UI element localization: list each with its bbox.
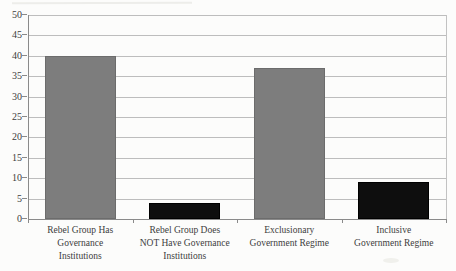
category-slot-1 — [28, 15, 133, 219]
y-tick-label-5: 5 — [0, 193, 22, 205]
y-tick-label-45: 45 — [0, 29, 22, 41]
y-tick-20 — [22, 136, 27, 137]
category-label-line: Institutions — [28, 250, 133, 263]
y-tick-45 — [22, 34, 27, 35]
y-tick-30 — [22, 96, 27, 97]
y-tick-15 — [22, 157, 27, 158]
y-tick-label-15: 15 — [0, 152, 22, 164]
y-tick-40 — [22, 55, 27, 56]
y-tick-label-10: 10 — [0, 172, 22, 184]
y-tick-10 — [22, 177, 27, 178]
x-axis-category-labels: Rebel Group HasGovernanceInstitutionsReb… — [28, 224, 446, 263]
bar-3 — [254, 68, 325, 219]
category-label-line: Exclusionary — [237, 224, 342, 237]
bar-chart-figure: 05101520253035404550 Rebel Group HasGove… — [0, 0, 456, 271]
bar-4 — [358, 182, 429, 219]
category-label-4: InclusiveGovernment Regime — [342, 224, 447, 263]
scan-artifact-top — [12, 2, 192, 5]
category-label-line: NOT Have Governance — [133, 237, 238, 250]
category-slot-2 — [133, 15, 238, 219]
category-slot-3 — [237, 15, 342, 219]
y-tick-25 — [22, 116, 27, 117]
y-tick-label-20: 20 — [0, 131, 22, 143]
category-label-line: Inclusive — [342, 224, 447, 237]
y-tick-label-0: 0 — [0, 213, 22, 225]
bar-1 — [45, 56, 116, 219]
bars-row — [28, 15, 446, 219]
y-axis-line — [28, 15, 29, 219]
bar-2 — [149, 203, 220, 219]
y-tick-35 — [22, 75, 27, 76]
y-tick-label-30: 30 — [0, 91, 22, 103]
y-tick-5 — [22, 198, 27, 199]
category-label-line: Government Regime — [342, 237, 447, 250]
category-label-line: Government Regime — [237, 237, 342, 250]
y-tick-label-25: 25 — [0, 111, 22, 123]
category-label-2: Rebel Group DoesNOT Have GovernanceInsti… — [133, 224, 238, 263]
category-label-1: Rebel Group HasGovernanceInstitutions — [28, 224, 133, 263]
y-tick-label-40: 40 — [0, 50, 22, 62]
category-label-line: Rebel Group Does — [133, 224, 238, 237]
y-tick-0 — [22, 218, 27, 219]
x-axis-line — [28, 219, 447, 220]
category-label-line: Rebel Group Has — [28, 224, 133, 237]
plot-area — [28, 15, 447, 219]
y-tick-label-50: 50 — [0, 9, 22, 21]
category-label-3: ExclusionaryGovernment Regime — [237, 224, 342, 263]
scan-artifact-bottom — [383, 258, 399, 263]
category-slot-4 — [342, 15, 447, 219]
y-tick-50 — [22, 14, 27, 15]
category-label-line: Institutions — [133, 250, 238, 263]
y-tick-label-35: 35 — [0, 70, 22, 82]
category-label-line: Governance — [28, 237, 133, 250]
